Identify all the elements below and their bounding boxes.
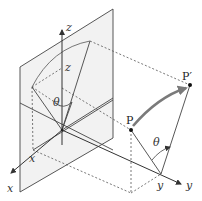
z-axis-label: z [65,21,72,34]
z-marker-label: z [64,61,71,74]
x-marker-label: x [29,152,36,165]
point-P-label: P [126,114,134,127]
origin-point [61,129,64,132]
point-P-prime-label: P′ [182,70,192,83]
point-P [129,128,133,132]
theta-label-right: θ [153,136,160,149]
point-P-prime [188,83,192,87]
rotation-diagram: z z x x y y θ θ P P′ [0,0,202,201]
diagram-svg: z z x x y y θ θ P P′ [0,0,202,201]
theta-label-left: θ [53,96,60,109]
y-marker-label: y [156,179,164,192]
y-axis-label: y [185,179,193,192]
x-axis-label: x [7,182,14,195]
